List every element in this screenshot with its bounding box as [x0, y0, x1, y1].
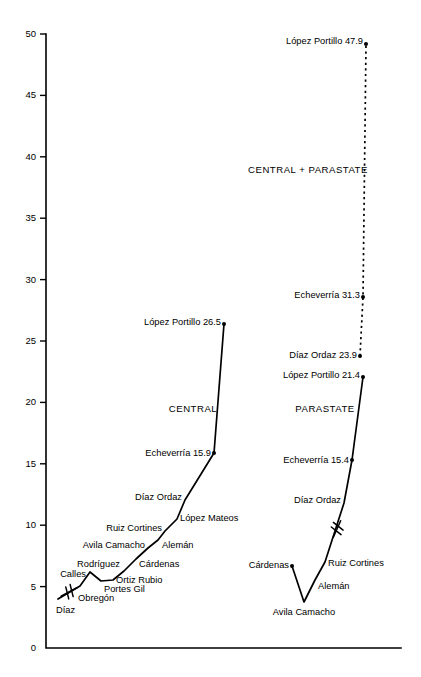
point-label: López Mateos: [180, 513, 239, 523]
data-point-dot: [212, 451, 216, 455]
point-label: Portes Gil: [104, 584, 145, 594]
point-label: Alemán: [162, 540, 194, 550]
y-tick-label-0: 0: [31, 642, 36, 653]
data-point-dot: [222, 322, 226, 326]
y-axis-ticks: 05101520253035404550: [25, 28, 46, 653]
data-point-dot: [358, 354, 362, 358]
point-label: Ruiz Cortines: [106, 523, 162, 533]
point-label: López Portillo 26.5: [144, 317, 221, 327]
y-tick-label-25: 25: [25, 335, 36, 346]
chart-canvas: 05101520253035404550 DíazObregónCallesPo…: [0, 0, 421, 677]
point-label: López Portillo 47.9: [286, 36, 363, 46]
data-point-dot: [361, 375, 365, 379]
point-label: Cárdenas: [249, 560, 290, 570]
point-label: Obregón: [78, 593, 114, 603]
series-title-central-parastate: CENTRAL + PARASTATE: [248, 164, 368, 175]
y-tick-label-10: 10: [25, 519, 36, 530]
y-tick-label-5: 5: [31, 581, 36, 592]
series-title-parastate: PARASTATE: [295, 403, 354, 414]
y-tick-label-15: 15: [25, 458, 36, 469]
y-tick-label-35: 35: [25, 212, 36, 223]
point-label: Rodríguez: [77, 559, 120, 569]
point-label: Cárdenas: [139, 559, 180, 569]
point-label: Díaz Ordaz: [294, 495, 341, 505]
point-label: Ruiz Cortines: [328, 558, 384, 568]
series-line-central-parastate: [360, 44, 366, 356]
point-label: Echeverría 31.3: [294, 290, 360, 300]
y-tick-label-30: 30: [25, 274, 36, 285]
series-title-central: CENTRAL: [169, 403, 217, 414]
point-label: Avila Camacho: [273, 607, 335, 617]
series-line-central: [58, 324, 224, 599]
y-tick-label-20: 20: [25, 396, 36, 407]
data-point-dot: [350, 458, 354, 462]
chart-figure: 05101520253035404550 DíazObregónCallesPo…: [0, 0, 421, 677]
point-label: López Portillo 21.4: [283, 370, 360, 380]
point-label: Alemán: [318, 581, 350, 591]
axis-break-mark: [58, 582, 80, 601]
y-tick-label-40: 40: [25, 151, 36, 162]
axis-break-mark: [328, 518, 346, 539]
y-tick-label-50: 50: [25, 28, 36, 39]
point-label: Díaz: [56, 605, 75, 615]
data-point-dot: [361, 295, 365, 299]
y-tick-label-45: 45: [25, 89, 36, 100]
point-label: Echeverría 15.4: [283, 455, 349, 465]
data-point-dot: [290, 564, 294, 568]
point-label: Calles: [60, 569, 86, 579]
point-label: Ortiz Rubio: [116, 575, 163, 585]
data-point-dot: [364, 42, 368, 46]
point-label: Avila Camacho: [83, 540, 145, 550]
point-label: Díaz Ordaz: [135, 492, 182, 502]
point-label: Echeverría 15.9: [145, 448, 211, 458]
point-label: Díaz Ordaz 23.9: [289, 350, 357, 360]
